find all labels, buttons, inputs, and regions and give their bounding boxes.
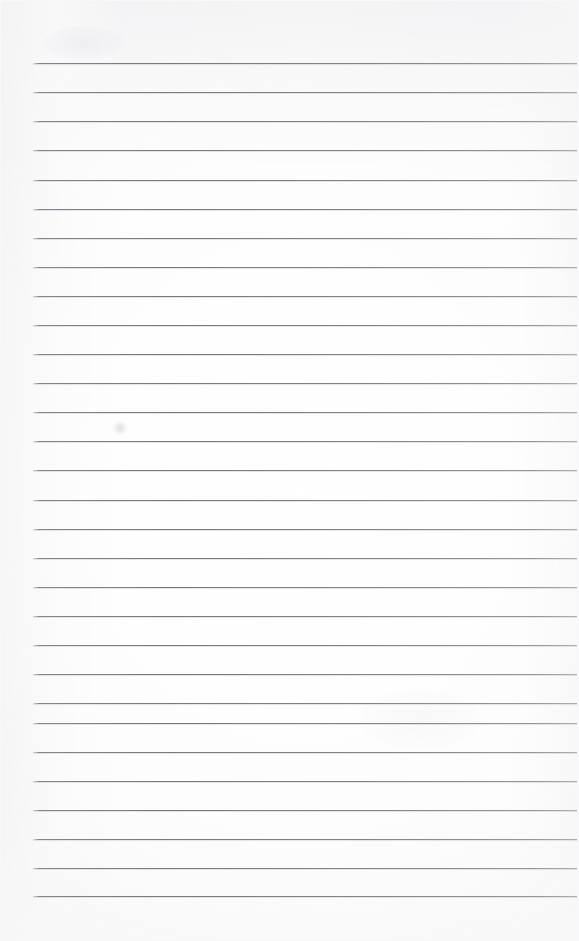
ruled-line xyxy=(33,810,577,811)
ruled-line xyxy=(33,121,577,122)
ruled-line xyxy=(33,558,577,559)
ruled-lines-group xyxy=(0,0,579,941)
ruled-line xyxy=(33,325,577,326)
ruled-line xyxy=(33,781,577,782)
scanned-page xyxy=(0,0,579,941)
ruled-line xyxy=(33,674,577,675)
ruled-line xyxy=(33,63,577,64)
ruled-line xyxy=(33,296,577,297)
ruled-line xyxy=(33,470,577,471)
ruled-line xyxy=(33,723,577,724)
ruled-line xyxy=(33,238,577,239)
ruled-line xyxy=(33,412,577,413)
ruled-line xyxy=(33,500,577,501)
ruled-line xyxy=(33,354,577,355)
ruled-line xyxy=(33,209,577,210)
ruled-line xyxy=(33,868,577,869)
ruled-line xyxy=(33,441,577,442)
ruled-line xyxy=(33,839,577,840)
ruled-line xyxy=(33,703,577,704)
ruled-line xyxy=(33,752,577,753)
ruled-line xyxy=(33,180,577,181)
ruled-line xyxy=(33,896,577,897)
ruled-line xyxy=(33,645,577,646)
ruled-line xyxy=(33,150,577,151)
ruled-line xyxy=(33,383,577,384)
ruled-line xyxy=(33,616,577,617)
ruled-line xyxy=(33,267,577,268)
ruled-line xyxy=(33,587,577,588)
ruled-line xyxy=(33,92,577,93)
ruled-line xyxy=(33,529,577,530)
